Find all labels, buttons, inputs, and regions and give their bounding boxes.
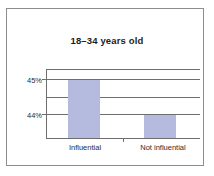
- x-tick-label-influential: Influential: [46, 143, 124, 152]
- plot-area: [46, 69, 200, 138]
- x-axis-center-tick: [123, 138, 124, 142]
- y-tick-label-44: 44%: [2, 111, 42, 120]
- bar-not-influential[interactable]: [144, 115, 176, 138]
- gridline-top: [46, 69, 200, 70]
- y-tick-label-45: 45%: [2, 76, 42, 85]
- y-axis-tick-labels: 45% 44%: [0, 0, 42, 176]
- chart-figure: 18–34 years old 45% 44% Influential Not …: [0, 0, 214, 176]
- x-tick-label-not-influential: Not influential: [124, 143, 202, 152]
- bar-influential[interactable]: [68, 80, 100, 138]
